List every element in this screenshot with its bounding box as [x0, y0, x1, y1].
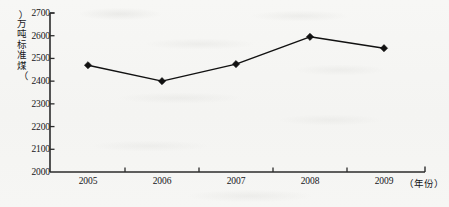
data-point-marker[interactable]	[380, 45, 387, 52]
data-series	[84, 33, 387, 84]
plot-area	[0, 0, 449, 207]
data-point-marker[interactable]	[84, 62, 91, 69]
data-point-marker[interactable]	[306, 33, 313, 40]
data-point-marker[interactable]	[158, 78, 165, 85]
line-chart: ︵ 万 吨 标 准 煤 ︶ 20002100220023002400250026…	[0, 0, 449, 207]
series-line	[88, 37, 384, 81]
data-point-marker[interactable]	[232, 61, 239, 68]
axes	[50, 13, 425, 172]
